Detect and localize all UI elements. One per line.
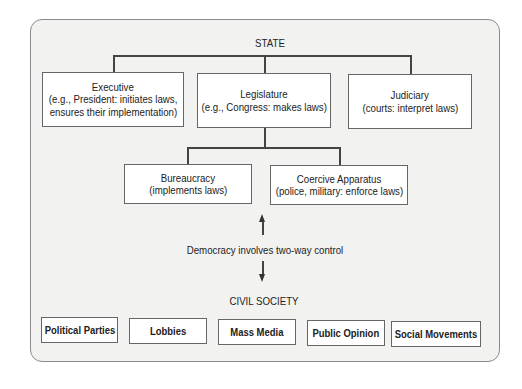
arrow-down-icon [259, 274, 265, 282]
legislature-detail: (e.g., Congress: makes laws) [201, 101, 326, 114]
civil-society-title: CIVIL SOCIETY [227, 295, 301, 308]
coercive-apparatus-detail: (police, military: enforce laws) [275, 185, 402, 198]
judiciary-name: Judiciary [391, 89, 429, 102]
connector-coercive [339, 147, 341, 165]
state-title: STATE [244, 37, 297, 50]
public-opinion-box: Public Opinion [307, 320, 385, 346]
connector-horizontal-sub [187, 147, 340, 149]
coercive-apparatus-box: Coercive Apparatus (police, military: en… [270, 165, 408, 205]
judiciary-box: Judiciary (courts: interpret laws) [348, 74, 472, 129]
connector-judiciary [410, 55, 412, 74]
mass-media-box: Mass Media [218, 319, 296, 345]
bureaucracy-detail: (implements laws) [149, 184, 227, 197]
arrow-up-shaft [262, 221, 264, 235]
legislature-box: Legislature (e.g., Congress: makes laws) [197, 73, 331, 128]
control-label: Democracy involves two-way control [181, 244, 348, 257]
bureaucracy-name: Bureaucracy [161, 172, 215, 185]
connector-horizontal-top [113, 55, 411, 57]
executive-detail-2: ensures their implementation) [49, 106, 177, 119]
coercive-apparatus-name: Coercive Apparatus [297, 173, 381, 186]
political-parties-box: Political Parties [41, 317, 118, 343]
political-parties-label: Political Parties [44, 324, 114, 337]
executive-detail-1: (e.g., President: initiates laws, [49, 93, 178, 106]
connector-legislature-down [264, 128, 266, 148]
lobbies-label: Lobbies [150, 325, 186, 338]
bureaucracy-box: Bureaucracy (implements laws) [124, 164, 252, 204]
arrow-down-shaft [262, 261, 264, 275]
executive-box: Executive (e.g., President: initiates la… [42, 72, 184, 127]
executive-name: Executive [92, 81, 134, 94]
social-movements-box: Social Movements [391, 321, 481, 347]
judiciary-detail: (courts: interpret laws) [362, 102, 458, 115]
connector-executive [113, 55, 115, 72]
connector-bureaucracy [187, 147, 189, 164]
public-opinion-label: Public Opinion [313, 327, 380, 340]
mass-media-label: Mass Media [230, 326, 283, 339]
social-movements-label: Social Movements [395, 328, 478, 341]
lobbies-box: Lobbies [129, 318, 207, 344]
legislature-name: Legislature [240, 88, 287, 101]
connector-legislature [264, 55, 266, 73]
